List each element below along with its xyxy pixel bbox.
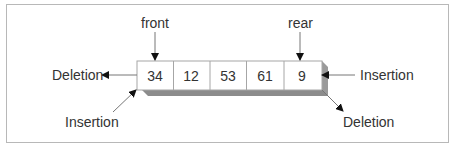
rear-label: rear bbox=[288, 15, 313, 31]
right-insertion-label: Insertion bbox=[360, 67, 414, 83]
right-deletion-label: Deletion bbox=[343, 114, 394, 130]
right-deletion-arrow bbox=[322, 90, 343, 111]
queue-cell: 34 bbox=[137, 61, 173, 90]
left-insertion-label: Insertion bbox=[65, 114, 119, 130]
queue-cell: 53 bbox=[210, 61, 246, 90]
queue-cell: 12 bbox=[173, 61, 209, 90]
queue-cell: 9 bbox=[284, 61, 320, 90]
left-insertion-arrow bbox=[113, 90, 136, 112]
queue-cell: 61 bbox=[247, 61, 283, 90]
left-deletion-label: Deletion bbox=[52, 67, 103, 83]
front-label: front bbox=[141, 15, 169, 31]
